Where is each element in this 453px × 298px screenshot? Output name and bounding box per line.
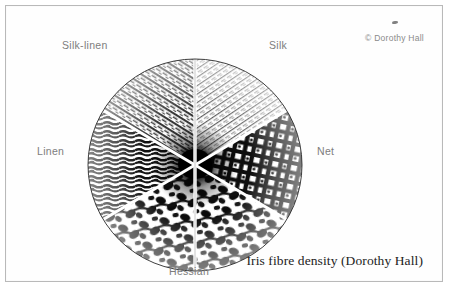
figure-caption: Iris fibre density (Dorothy Hall): [246, 253, 423, 269]
iris-illustration-svg: [87, 58, 303, 272]
label-hessian: Hessian: [169, 265, 209, 277]
copyright-credit: © Dorothy Hall: [365, 33, 424, 43]
label-silk: Silk: [269, 39, 287, 51]
label-silk-linen: Silk-linen: [62, 39, 108, 51]
label-net: Net: [317, 145, 334, 157]
figure-frame: © Dorothy Hall: [5, 5, 443, 282]
scan-speck: [392, 21, 398, 24]
iris-diagram: [87, 58, 303, 272]
label-linen: Linen: [37, 145, 64, 157]
figure-root: © Dorothy Hall: [0, 0, 453, 298]
